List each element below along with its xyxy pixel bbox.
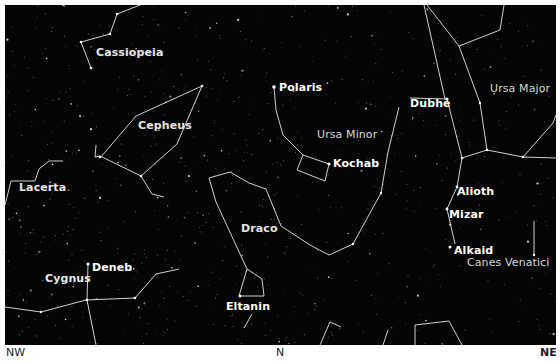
label-mizar: Mizar: [449, 209, 483, 221]
label-ursa-major: Ursa Major: [490, 83, 550, 95]
direction-northwest: NW: [6, 347, 25, 359]
label-deneb: Deneb: [92, 262, 132, 274]
label-kochab: Kochab: [333, 158, 379, 170]
label-cassiopeia: Cassiopeia: [96, 47, 163, 59]
label-eltanin: Eltanin: [226, 301, 270, 313]
ursa-major-paw: [523, 115, 556, 157]
bottom-line-3: [415, 321, 462, 345]
bottom-line-2: [320, 322, 341, 345]
direction-northeast: NE: [540, 347, 557, 359]
draco-tail: [209, 178, 264, 296]
label-alkaid: Alkaid: [454, 245, 493, 257]
bottom-line-4: [383, 330, 388, 345]
star-map: Cassiopeia Cepheus Lacerta Cygnus Draco …: [5, 5, 556, 345]
label-polaris: Polaris: [279, 82, 322, 94]
label-lacerta: Lacerta: [19, 182, 66, 194]
star-field: [5, 5, 556, 345]
constellation-lines: [5, 5, 556, 345]
label-draco: Draco: [241, 223, 278, 235]
label-dubhe: Dubhe: [410, 98, 451, 110]
label-cygnus: Cygnus: [45, 273, 91, 285]
label-ursa-minor: Ursa Minor: [317, 129, 377, 141]
label-cepheus: Cepheus: [138, 120, 192, 132]
bottom-line-1: [244, 314, 252, 328]
ursa-major-handle: [447, 158, 462, 244]
ursa-major-legs: [487, 150, 556, 158]
label-alioth: Alioth: [457, 186, 494, 198]
label-canes-venatici: Canes Venatici: [467, 257, 549, 269]
ursa-major-bowl: [424, 5, 445, 99]
ursa-major-lines: [427, 5, 504, 46]
direction-north: N: [276, 347, 284, 359]
